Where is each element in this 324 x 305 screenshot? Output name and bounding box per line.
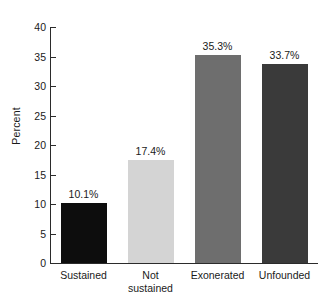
bar-chart: Percent 0510152025303540 10.1%17.4%35.3%… [0,0,324,305]
bar-value-label: 10.1% [49,188,119,200]
y-axis-tick-label: 25 [6,110,46,122]
y-axis-tick-label: 40 [6,21,46,33]
bar[interactable] [61,203,107,263]
bar-value-label: 17.4% [116,145,186,157]
y-axis-tick-label: 10 [6,198,46,210]
bar[interactable] [262,64,308,263]
y-axis-tick [51,263,56,264]
plot-area: 10.1%17.4%35.3%33.7% [50,27,318,263]
bar[interactable] [128,160,174,263]
y-axis-tick-label: 5 [6,228,46,240]
bar[interactable] [195,55,241,263]
category-label-line: Unfounded [239,269,324,282]
bar-value-label: 33.7% [250,49,320,61]
y-axis-tick-label: 0 [6,257,46,269]
bar-value-label: 35.3% [183,40,253,52]
y-axis-tick-label: 35 [6,51,46,63]
x-axis-line [50,263,318,264]
x-axis-category-label: Unfounded [239,269,324,282]
y-axis-tick-label: 30 [6,80,46,92]
category-label-line: sustained [105,282,197,295]
y-axis-tick-label: 20 [6,139,46,151]
y-axis-tick-label: 15 [6,169,46,181]
